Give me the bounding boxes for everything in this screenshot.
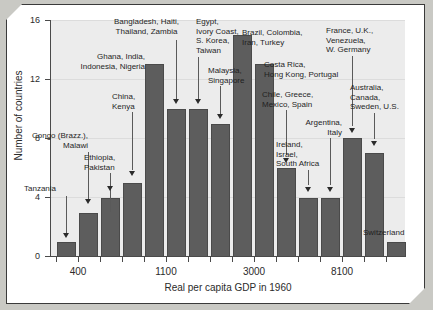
bar-16 xyxy=(387,242,406,257)
leader-bangladesh-haiti xyxy=(176,40,177,100)
annotation-argentina-italy: Argentina,Italy xyxy=(288,118,342,137)
annotation-brazil-colombia: Brazil, Colombia,Iran, Turkey xyxy=(242,28,302,47)
x-tick-6 xyxy=(166,257,167,262)
annotation-ghana-india: Ghana, India,Indonesia, Nigeria xyxy=(52,52,145,71)
x-tick-3 xyxy=(100,257,101,262)
annotation-france-uk: France, U.K.,Venezuela,W. Germany xyxy=(326,26,373,55)
arrowhead-ireland-israel xyxy=(305,187,311,192)
arrowhead-egypt-ivorycoast xyxy=(195,99,201,104)
annotation-malaysia-singapore: Malaysia,Singapore xyxy=(208,66,244,85)
annotation-tanzania: Tanzania xyxy=(24,184,56,194)
x-tick-15 xyxy=(364,257,365,262)
x-tick-7 xyxy=(188,257,189,262)
arrowhead-china-kenya xyxy=(129,171,135,176)
annotation-chile-greece: Chile, Greece,Mexico, Spain xyxy=(262,90,313,109)
bar-14 xyxy=(343,138,362,257)
leader-egypt-ivorycoast xyxy=(198,57,199,100)
x-tick-label-1100: 1100 xyxy=(141,266,191,277)
arrowhead-argentina-italy xyxy=(327,187,333,192)
bar-7 xyxy=(189,109,208,257)
y-tick-12 xyxy=(45,79,50,80)
bar-1 xyxy=(57,242,76,257)
x-tick-2 xyxy=(78,257,79,262)
arrowhead-ethiopia-pakistan xyxy=(107,186,113,191)
x-tick-13 xyxy=(320,257,321,262)
annotation-australia-canada: Australia,Canada,Sweden, U.S. xyxy=(350,83,399,112)
annotation-ireland-israel: Ireland,Israel,South Africa xyxy=(276,140,319,169)
arrowhead-france-uk xyxy=(349,128,355,133)
x-tick-9 xyxy=(232,257,233,262)
x-tick-1 xyxy=(56,257,57,262)
leader-malaysia-singapore xyxy=(220,86,221,114)
leader-china-kenya xyxy=(132,112,133,170)
annotation-ethiopia-pakistan: Ethiopia,Pakistan xyxy=(84,153,115,172)
bar-8 xyxy=(211,124,230,257)
arrowhead-tanzania xyxy=(63,233,69,238)
x-tick-14 xyxy=(342,257,343,262)
bar-5 xyxy=(145,64,164,257)
leader-tanzania xyxy=(66,196,67,234)
annotation-egypt-ivorycoast: Egypt,Ivory Coast,S. Korea,Taiwan xyxy=(196,17,239,55)
arrowhead-congo-malawi xyxy=(85,199,91,204)
annotation-congo-malawi: Congo (Brazz.),Malawi xyxy=(14,131,88,150)
annotation-bangladesh-haiti: Bangladesh, Haiti,Thailand, Zambia xyxy=(100,17,193,36)
leader-ethiopia-pakistan xyxy=(110,173,111,212)
leader-australia-canada xyxy=(374,113,375,139)
bar-2 xyxy=(79,213,98,257)
bar-4 xyxy=(123,183,142,257)
x-tick-10 xyxy=(254,257,255,262)
arrowhead-malaysia-singapore xyxy=(217,114,223,119)
bar-15 xyxy=(365,153,384,257)
x-tick-11 xyxy=(276,257,277,262)
annotation-costarica-hongkong: Costa Rica,Hong Kong, Portugal xyxy=(264,60,338,79)
y-axis-label: Number of countries xyxy=(13,36,24,196)
x-tick-label-8100: 8100 xyxy=(317,266,367,277)
bar-11 xyxy=(277,168,296,257)
bar-13 xyxy=(321,198,340,257)
x-tick-8 xyxy=(210,257,211,262)
bar-12 xyxy=(299,198,318,257)
x-tick-12 xyxy=(298,257,299,262)
x-tick-4 xyxy=(122,257,123,262)
arrowhead-australia-canada xyxy=(371,141,377,146)
x-tick-label-3000: 3000 xyxy=(229,266,279,277)
leader-ireland-israel xyxy=(308,170,309,185)
arrowhead-bangladesh-haiti xyxy=(173,99,179,104)
x-axis-label: Real per capita GDP in 1960 xyxy=(50,282,406,293)
x-tick-label-400: 400 xyxy=(53,266,103,277)
x-tick-16 xyxy=(386,257,387,262)
annotation-switzerland: Switzerland xyxy=(363,228,404,238)
y-tick-16 xyxy=(45,20,50,21)
y-tick-label-16: 16 xyxy=(14,15,40,25)
chart-canvas: 16 12 8 4 0 Number of countries Real per… xyxy=(0,0,433,310)
bar-6 xyxy=(167,109,186,257)
y-tick-0 xyxy=(45,256,50,257)
y-tick-label-0: 0 xyxy=(14,251,40,261)
leader-argentina-italy xyxy=(330,138,331,185)
x-tick-5 xyxy=(144,257,145,262)
y-tick-4 xyxy=(45,197,50,198)
annotation-china-kenya: China,Kenya xyxy=(112,92,135,111)
